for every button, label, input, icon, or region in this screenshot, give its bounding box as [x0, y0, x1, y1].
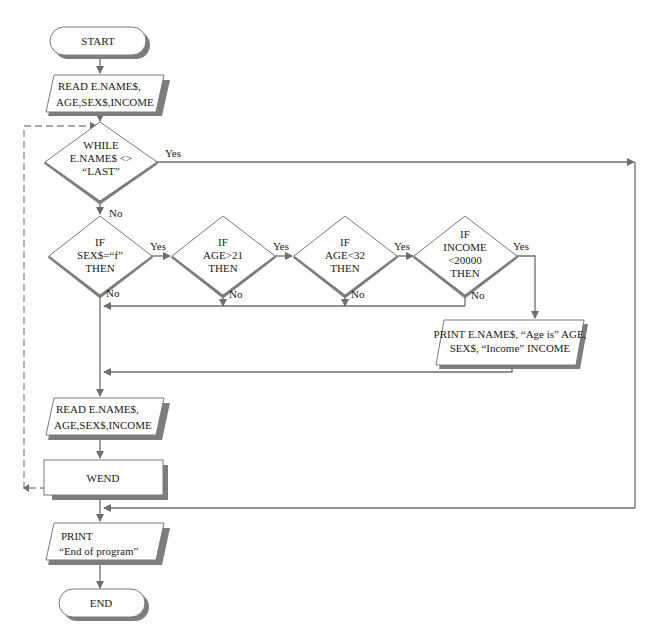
node-if-sex[interactable]: IF SEX$=“f” THEN: [49, 216, 152, 296]
node-start-label: START: [81, 35, 115, 47]
node-while-line1: WHILE: [83, 139, 119, 151]
node-if-age32-line1: IF: [340, 236, 350, 248]
node-read1-line1: READ E.NAME$,: [58, 80, 141, 92]
node-end-label: END: [90, 597, 113, 609]
node-if-sex-line3: THEN: [85, 262, 114, 274]
node-wend[interactable]: WEND: [44, 460, 168, 500]
node-if-age21-line1: IF: [218, 236, 228, 248]
node-if-age21[interactable]: IF AGE>21 THEN: [172, 216, 275, 296]
node-print-record-line2: SEX$, “Income” INCOME: [450, 342, 571, 354]
edge-income-yes: [517, 256, 535, 318]
label-age21-no: No: [229, 288, 243, 300]
node-while-line3: “LAST”: [82, 165, 119, 177]
node-if-income-line4: THEN: [450, 267, 479, 279]
label-sex-yes: Yes: [150, 240, 166, 252]
node-if-age21-line2: AGE>21: [203, 249, 243, 261]
node-if-income-line3: <20000: [448, 254, 482, 266]
label-age32-no: No: [351, 288, 365, 300]
node-if-income[interactable]: IF INCOME <20000 THEN: [414, 216, 517, 296]
node-if-age21-line3: THEN: [208, 262, 237, 274]
label-while-no: No: [109, 207, 123, 219]
node-print-end[interactable]: PRINT “End of program”: [46, 523, 170, 565]
label-age32-yes: Yes: [394, 240, 410, 252]
flowchart-canvas: START READ E.NAME$, AGE,SEX$,INCOME WHIL…: [0, 0, 661, 638]
node-print-end-line1: PRINT: [61, 530, 93, 542]
node-if-sex-line2: SEX$=“f”: [77, 249, 123, 261]
node-if-income-line1: IF: [460, 228, 470, 240]
node-read2[interactable]: READ E.NAME$, AGE,SEX$,INCOME: [46, 398, 170, 440]
node-while-line2: E.NAME$ <>: [70, 152, 133, 164]
label-income-yes: Yes: [513, 240, 529, 252]
node-end[interactable]: END: [59, 589, 149, 621]
node-while[interactable]: WHILE E.NAME$ <> “LAST”: [45, 122, 157, 202]
node-if-age32[interactable]: IF AGE<32 THEN: [294, 216, 397, 296]
label-sex-no: No: [106, 287, 120, 299]
node-read2-line1: READ E.NAME$,: [56, 403, 139, 415]
node-read1[interactable]: READ E.NAME$, AGE,SEX$,INCOME: [46, 75, 170, 116]
node-wend-label: WEND: [87, 472, 120, 484]
label-age21-yes: Yes: [273, 240, 289, 252]
label-while-yes: Yes: [165, 147, 181, 159]
node-read1-line2: AGE,SEX$,INCOME: [56, 96, 154, 108]
node-print-record-line1: PRINT E.NAME$, “Age is” AGE,: [434, 328, 587, 340]
node-if-sex-line1: IF: [95, 236, 105, 248]
label-income-no: No: [471, 289, 485, 301]
node-if-income-line2: INCOME: [443, 241, 487, 253]
node-start[interactable]: START: [50, 27, 150, 59]
node-read2-line2: AGE,SEX$,INCOME: [54, 419, 152, 431]
node-print-record[interactable]: PRINT E.NAME$, “Age is” AGE, SEX$, “Inco…: [434, 320, 588, 369]
node-if-age32-line3: THEN: [330, 262, 359, 274]
node-if-age32-line2: AGE<32: [325, 249, 365, 261]
node-print-end-line2: “End of program”: [59, 545, 139, 557]
